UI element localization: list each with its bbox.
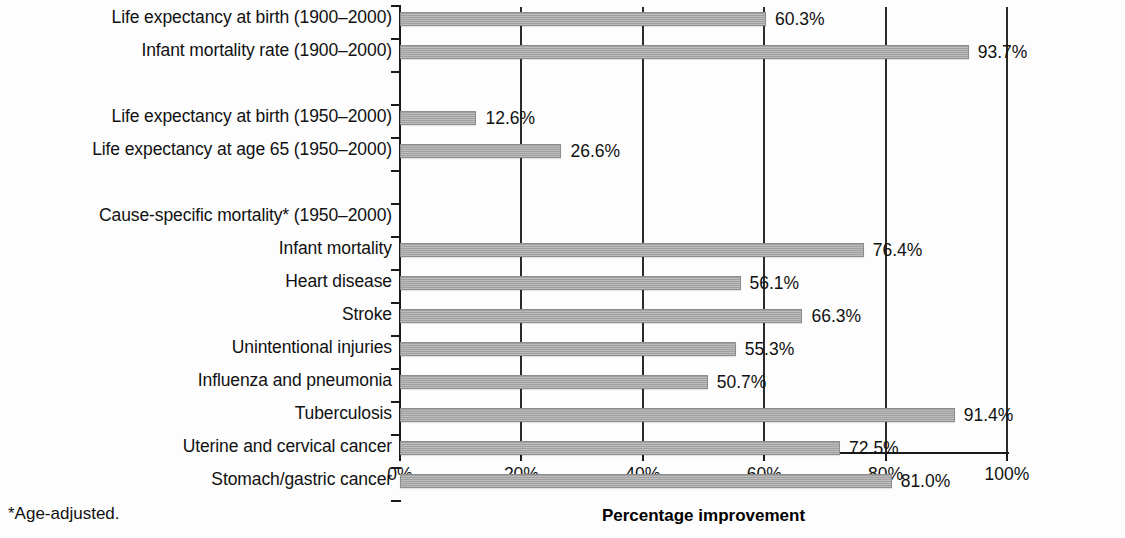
bar-value-label: 55.3% bbox=[745, 341, 795, 357]
bar bbox=[400, 111, 476, 125]
y-tick-mark bbox=[391, 467, 401, 469]
bar bbox=[400, 408, 955, 422]
footnote: *Age-adjusted. bbox=[8, 504, 120, 524]
bar bbox=[400, 243, 864, 257]
bar bbox=[400, 474, 892, 488]
bar-value-label: 12.6% bbox=[485, 110, 535, 126]
bar bbox=[400, 12, 766, 26]
y-tick-mark bbox=[391, 203, 401, 205]
bar bbox=[400, 45, 969, 59]
category-label: Uterine and cervical cancer bbox=[183, 436, 392, 456]
y-tick-mark bbox=[391, 104, 401, 106]
y-tick-mark bbox=[391, 5, 401, 7]
bar-value-label: 56.1% bbox=[750, 275, 800, 291]
y-tick-mark bbox=[391, 137, 401, 139]
y-tick-mark bbox=[391, 335, 401, 337]
y-tick-mark bbox=[391, 170, 401, 172]
category-label: Infant mortality bbox=[279, 238, 392, 258]
category-label: Stroke bbox=[342, 304, 392, 324]
category-label: Life expectancy at birth (1950–2000) bbox=[112, 106, 392, 126]
category-label: Unintentional injuries bbox=[232, 337, 392, 357]
bar-value-label: 81.0% bbox=[901, 473, 951, 489]
bar-chart: 0%20%40%60%80%100% Percentage improvemen… bbox=[0, 0, 1125, 538]
y-tick-mark bbox=[391, 236, 401, 238]
bar-value-label: 72.5% bbox=[849, 440, 899, 456]
category-label: Life expectancy at age 65 (1950–2000) bbox=[92, 139, 392, 159]
bar bbox=[400, 375, 708, 389]
category-label: Tuberculosis bbox=[295, 403, 392, 423]
plot-rows: Life expectancy at birth (1900–2000)60.3… bbox=[0, 0, 1125, 538]
y-tick-mark bbox=[391, 71, 401, 73]
bar-value-label: 66.3% bbox=[811, 308, 861, 324]
bar-value-label: 93.7% bbox=[978, 44, 1028, 60]
bar bbox=[400, 309, 802, 323]
category-label: Stomach/gastric cancer bbox=[211, 469, 392, 489]
bar bbox=[400, 276, 741, 290]
y-tick-mark bbox=[391, 368, 401, 370]
category-label: Life expectancy at birth (1900–2000) bbox=[112, 7, 392, 27]
bar bbox=[400, 441, 840, 455]
y-tick-mark bbox=[391, 401, 401, 403]
category-label: Infant mortality rate (1900–2000) bbox=[141, 40, 392, 60]
bar-value-label: 91.4% bbox=[964, 407, 1014, 423]
y-tick-mark bbox=[391, 500, 401, 502]
bar-value-label: 50.7% bbox=[717, 374, 767, 390]
category-label: Cause-specific mortality* (1950–2000) bbox=[99, 205, 392, 225]
bar bbox=[400, 342, 736, 356]
y-tick-mark bbox=[391, 302, 401, 304]
y-tick-mark bbox=[391, 38, 401, 40]
y-tick-mark bbox=[391, 269, 401, 271]
category-label: Heart disease bbox=[285, 271, 392, 291]
y-tick-mark bbox=[391, 434, 401, 436]
bar-value-label: 26.6% bbox=[570, 143, 620, 159]
bar-value-label: 76.4% bbox=[873, 242, 923, 258]
category-label: Influenza and pneumonia bbox=[198, 370, 392, 390]
bar-value-label: 60.3% bbox=[775, 11, 825, 27]
bar bbox=[400, 144, 561, 158]
